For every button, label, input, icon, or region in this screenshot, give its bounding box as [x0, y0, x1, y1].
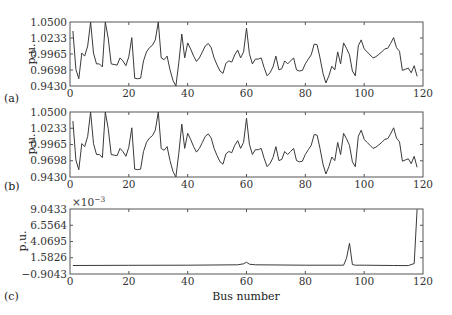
y-tick-label: −0.9043	[21, 268, 67, 280]
x-tick-label: 120	[413, 275, 433, 287]
x-tick-label: 100	[354, 87, 374, 99]
y-tick-label: 1.0233	[30, 122, 67, 134]
panel-b-yticks: 0.94300.96980.99651.02331.0500	[30, 106, 423, 183]
panel-a-ylabel: p.u.	[25, 43, 38, 64]
x-tick-label: 0	[67, 275, 74, 287]
x-tick-label: 80	[299, 178, 312, 190]
x-tick-label: 40	[181, 275, 194, 287]
panel-a-tag: (a)	[4, 92, 19, 105]
panel-c-series	[73, 209, 417, 265]
x-tick-label: 80	[299, 87, 312, 99]
panel-c-frame	[70, 209, 423, 274]
panel-c-xticks: 020406080100120	[67, 209, 433, 287]
x-tick-label: 0	[67, 178, 74, 190]
panel-c-yticks: −0.90431.58264.06956.55649.0433	[21, 203, 423, 280]
x-tick-label: 20	[122, 275, 135, 287]
x-axis-label: Bus number	[212, 290, 280, 303]
x-tick-label: 40	[181, 178, 194, 190]
x-tick-label: 60	[240, 275, 253, 287]
panel-a-xticks: 020406080100120	[67, 22, 433, 99]
panel-a-yticks: 0.94300.96980.99651.02331.0500	[30, 16, 423, 92]
y-tick-label: 6.5564	[30, 219, 67, 231]
x-tick-label: 40	[181, 87, 194, 99]
y-tick-label: 1.0233	[30, 32, 67, 44]
y-tick-label: 0.9430	[30, 80, 67, 92]
panel-a-series	[73, 22, 417, 86]
panel-c-ylabel: p.u.	[16, 230, 29, 251]
panel-b-tag: (b)	[4, 180, 20, 193]
panel-b-ylabel: p.u.	[25, 133, 38, 154]
y-tick-label: 1.0500	[30, 16, 67, 28]
panel-c: −0.90431.58264.06956.55649.0433 02040608…	[4, 195, 433, 303]
y-tick-label: 4.0695	[30, 235, 67, 247]
panel-b: 0.94300.96980.99651.02331.0500 020406080…	[4, 106, 433, 194]
panel-b-series	[73, 112, 417, 177]
panel-b-xticks: 020406080100120	[67, 112, 433, 190]
x-tick-label: 0	[67, 87, 74, 99]
x-tick-label: 120	[413, 87, 433, 99]
y-tick-label: 0.9430	[30, 171, 67, 183]
x-tick-label: 20	[122, 87, 135, 99]
x-tick-label: 120	[413, 178, 433, 190]
panel-c-exponent: ×10−3	[72, 195, 105, 208]
y-tick-label: 9.0433	[30, 203, 67, 215]
y-tick-label: 1.0500	[30, 106, 67, 118]
y-tick-label: 0.9698	[30, 154, 67, 166]
x-tick-label: 60	[240, 178, 253, 190]
y-tick-label: 1.5826	[30, 251, 67, 263]
x-tick-label: 100	[354, 275, 374, 287]
x-tick-label: 60	[240, 87, 253, 99]
panel-c-tag: (c)	[4, 290, 19, 303]
figure: 0.94300.96980.99651.02331.0500 020406080…	[0, 0, 452, 315]
panel-a: 0.94300.96980.99651.02331.0500 020406080…	[4, 16, 433, 106]
x-tick-label: 100	[354, 178, 374, 190]
x-tick-label: 20	[122, 178, 135, 190]
x-tick-label: 80	[299, 275, 312, 287]
